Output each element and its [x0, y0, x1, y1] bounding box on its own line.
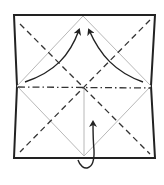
origami-diagram: [0, 0, 164, 185]
